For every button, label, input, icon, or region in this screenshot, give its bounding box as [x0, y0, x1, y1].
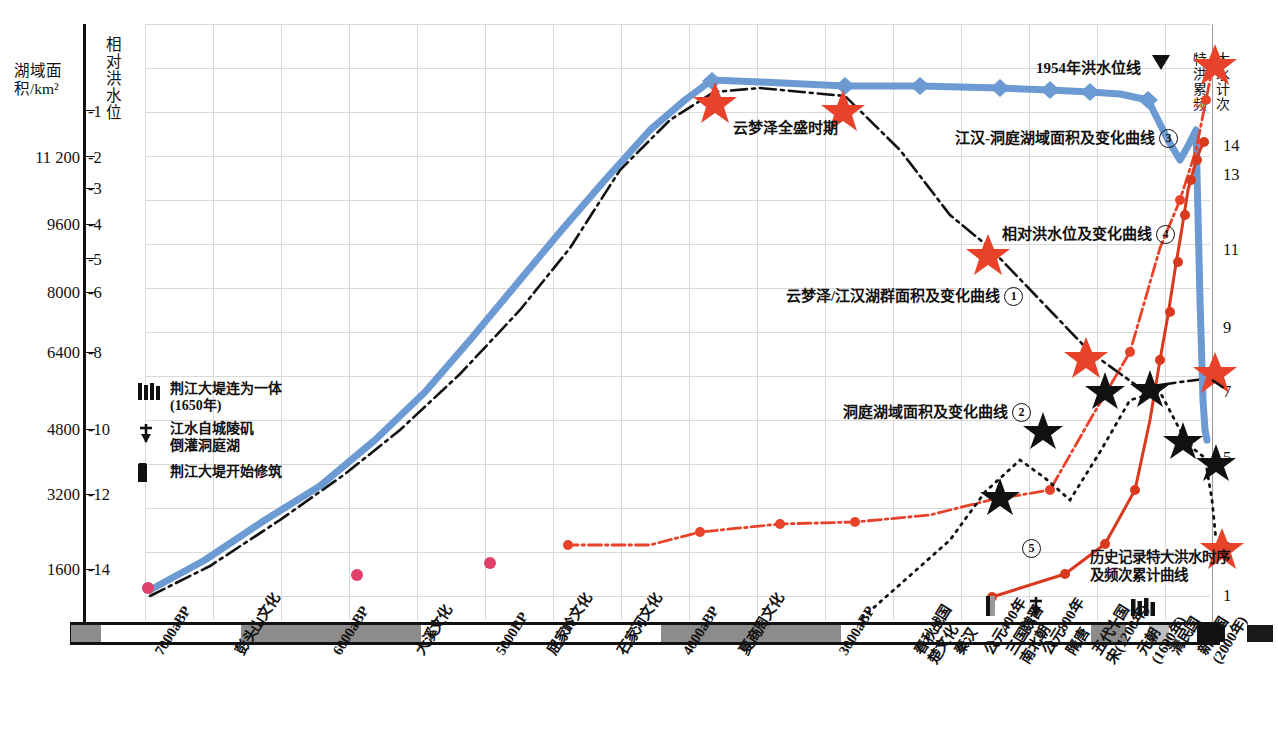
left-axis-area-title: 湖域面积/km² — [14, 62, 86, 98]
area-tick-4800: 4800 — [0, 422, 80, 439]
annotation-flood-line-1954: 1954年洪水位线 — [1036, 56, 1141, 77]
level-tick-1: -1 — [88, 104, 102, 121]
area-tick-9600: 9600 — [0, 217, 80, 234]
legend-item-2: 荆江大堤开始修筑 — [138, 463, 313, 489]
level-tick-6: -6 — [88, 285, 102, 302]
chart-canvas: 湖域面积/km² 相对洪水位 特洪累频 大水计次 11 200 9600 800… — [0, 0, 1278, 745]
area-tick-1600: 1600 — [0, 562, 80, 579]
legend-item-1: 江水自城陵矶 倒灌洞庭湖 — [138, 423, 313, 449]
levee-start-axis-icon — [986, 596, 995, 616]
area-tick-11200: 11 200 — [0, 150, 80, 167]
annotation-curve1-number: 1 — [1004, 287, 1023, 306]
levee-start-icon — [138, 463, 147, 482]
timeline-segment — [1247, 625, 1273, 642]
annotation-curve4-number: 4 — [1156, 225, 1175, 244]
annotation-curve1: 云梦泽/江汉湖群面积及变化曲线1 — [786, 284, 1023, 306]
annotation-curve2: 洞庭湖域面积及变化曲线2 — [843, 400, 1031, 422]
timeline-segment — [1273, 625, 1278, 642]
annotation-curve4-text: 相对洪水位及变化曲线 — [1002, 226, 1152, 242]
annotation-yunmeng-peak: 云梦泽全盛时期 — [733, 116, 838, 137]
left-axis-level-title: 相对洪水位 — [104, 36, 121, 156]
annotation-curve3-number: 3 — [1159, 129, 1178, 148]
freq-tick-11: 11 — [1223, 242, 1239, 259]
freq-tick-9: 9 — [1223, 320, 1231, 337]
annotation-curve3: 江汉-洞庭湖域面积及变化曲线3 — [955, 126, 1178, 148]
left-axis-rule — [83, 24, 86, 624]
legend: 荆江大堤连为一体 (1650年) 江水自城陵矶 倒灌洞庭湖 荆江大堤开始修筑 — [138, 383, 313, 500]
freq-tick-5: 5 — [1223, 450, 1231, 467]
level-tick-4: -4 — [88, 217, 102, 234]
level-tick-3: -3 — [88, 181, 102, 198]
legend-item-1-label: 江水自城陵矶 倒灌洞庭湖 — [170, 421, 254, 454]
area-tick-6400: 6400 — [0, 345, 80, 362]
annotation-curve5-number: 5 — [1022, 539, 1041, 558]
legend-item-0: 荆江大堤连为一体 (1650年) — [138, 383, 313, 409]
annotation-curve1-text: 云梦泽/江汉湖群面积及变化曲线 — [786, 288, 1000, 304]
annotation-curve5: 历史记录特大洪水时序 及频次累计曲线 — [1090, 548, 1230, 584]
legend-item-2-label: 荆江大堤开始修筑 — [170, 464, 282, 481]
backflow-arrow-icon — [138, 423, 154, 443]
legend-item-0-label: 荆江大堤连为一体 (1650年) — [170, 381, 282, 414]
level-tick-12: -12 — [88, 487, 110, 504]
annotation-curve5-line1: 历史记录特大洪水时序 — [1090, 548, 1230, 566]
area-tick-8000: 8000 — [0, 285, 80, 302]
plot-grid — [145, 24, 1210, 620]
annotation-curve5-line2: 及频次累计曲线 — [1090, 566, 1230, 584]
annotation-curve2-number: 2 — [1012, 403, 1031, 422]
annotation-curve2-text: 洞庭湖域面积及变化曲线 — [843, 404, 1008, 420]
annotation-curve3-text: 江汉-洞庭湖域面积及变化曲线 — [955, 130, 1155, 146]
timeline-segment — [71, 625, 101, 642]
freq-tick-7: 7 — [1223, 384, 1231, 401]
timeline-segment — [241, 625, 421, 642]
level-tick-2: -2 — [88, 150, 102, 167]
level-tick-10: -10 — [88, 422, 110, 439]
annotation-curve4: 相对洪水位及变化曲线4 — [1002, 222, 1175, 244]
level-tick-8: -8 — [88, 345, 102, 362]
right-axis-title-col1: 特洪累频 — [1190, 52, 1206, 162]
area-tick-3200: 3200 — [0, 487, 80, 504]
freq-tick-13: 13 — [1223, 167, 1240, 184]
level-tick-14: -14 — [88, 562, 110, 579]
freq-tick-14: 14 — [1223, 138, 1240, 155]
levee-joined-icon — [138, 383, 162, 400]
freq-tick-1: 1 — [1223, 588, 1231, 605]
level-tick-5: -5 — [88, 252, 102, 269]
